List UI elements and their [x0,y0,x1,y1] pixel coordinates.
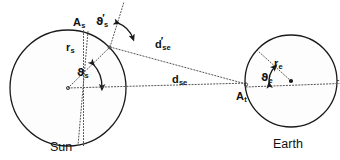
label-r-earth: re [274,54,283,70]
diagram-canvas [0,0,340,160]
earth-center-dot [289,79,293,83]
label-body-sun: Sun [50,141,72,154]
label-theta-s-prime: ϑ′s [96,12,108,28]
sun-earth-geometry-diagram: As ϑ′s rs ϑs d′se dse At re ϑe Sun Earth [0,0,340,160]
theta-s-prime-arc [118,23,134,39]
label-body-earth: Earth [273,138,303,151]
label-d-se: dse [172,70,187,86]
label-point-as: As [73,13,85,29]
label-theta-earth: ϑe [261,68,273,84]
label-r-sun: rs [66,38,75,54]
label-theta-sun: ϑs [77,63,89,79]
label-d-se-prime: d′se [155,35,171,51]
label-point-at: At [236,87,247,103]
